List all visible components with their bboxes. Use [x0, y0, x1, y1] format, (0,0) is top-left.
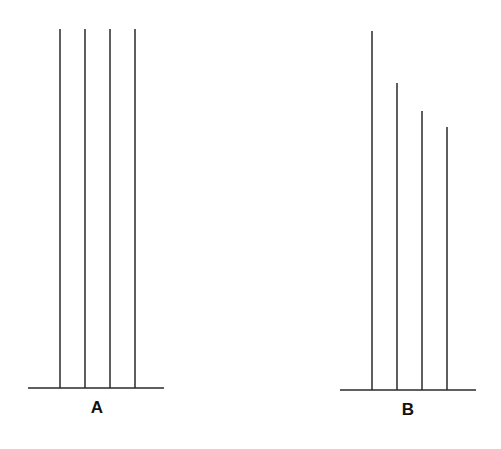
panel-b-label: B — [402, 400, 414, 419]
line-comparison-diagram: A B — [0, 0, 501, 449]
panel-a: A — [28, 29, 164, 417]
panel-b: B — [340, 31, 476, 419]
panel-a-label: A — [91, 398, 103, 417]
